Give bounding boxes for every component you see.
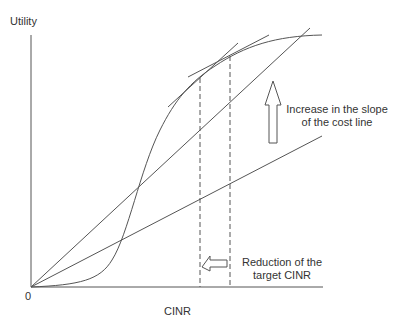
diagram-canvas (0, 0, 396, 326)
cinr-annotation-line2: target CINR (236, 269, 328, 282)
slope-annotation-line2: of the cost line (282, 116, 392, 129)
y-axis-label: Utility (10, 15, 37, 28)
left-arrow-icon (202, 256, 227, 271)
slope-annotation-line1: Increase in the slope (282, 103, 392, 116)
tangent-line-2 (188, 35, 269, 77)
x-axis-label: CINR (164, 305, 191, 318)
origin-label: 0 (25, 290, 31, 303)
cinr-annotation: Reduction of the target CINR (236, 256, 328, 282)
cinr-annotation-line1: Reduction of the (236, 256, 328, 269)
steep-cost-line (31, 28, 310, 287)
up-arrow-icon (265, 81, 281, 143)
tangent-line-1 (168, 43, 238, 107)
sigmoid-utility-curve (31, 35, 322, 287)
slope-annotation: Increase in the slope of the cost line (282, 103, 392, 129)
